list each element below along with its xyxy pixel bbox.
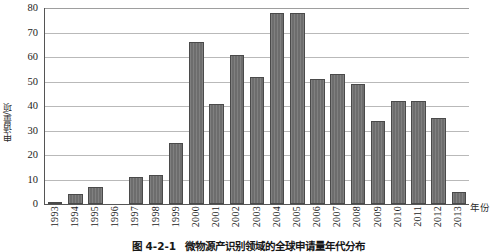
figure-container: 申请量/项 01020304050607080 1993199419951996…	[0, 0, 497, 252]
x-tick-label: 2012	[431, 206, 445, 242]
bar	[452, 192, 467, 204]
bar	[230, 55, 245, 204]
x-tick-label: 2003	[249, 206, 263, 242]
bar-slot	[287, 8, 307, 204]
plot-area	[44, 8, 469, 205]
y-tick-label: 80	[28, 3, 39, 13]
bar-slot	[408, 8, 428, 204]
x-tick-label: 2006	[310, 206, 324, 242]
x-tick-label: 1993	[47, 206, 61, 242]
figure-caption-number: 图 4-2-1	[132, 240, 176, 252]
bar	[431, 118, 446, 204]
figure-caption: 图 4-2-1微物源产识别领域的全球申请量年代分布	[0, 239, 497, 252]
x-tick-label: 1994	[67, 206, 81, 242]
bar-series	[45, 8, 469, 204]
bar	[129, 177, 144, 204]
x-axis-title: 年份	[470, 200, 490, 214]
bar-slot	[388, 8, 408, 204]
bar	[371, 121, 386, 204]
x-tick-label: 2009	[370, 206, 384, 242]
bar	[209, 104, 224, 204]
bar-slot	[247, 8, 267, 204]
figure-caption-text: 微物源产识别领域的全球申请量年代分布	[185, 240, 365, 252]
bar-slot	[186, 8, 206, 204]
bar-slot	[328, 8, 348, 204]
bar-slot	[85, 8, 105, 204]
y-tick-label: 0	[33, 199, 38, 209]
bar-slot	[267, 8, 287, 204]
x-tick-label: 2002	[229, 206, 243, 242]
x-tick-label: 2010	[390, 206, 404, 242]
bar-slot	[307, 8, 327, 204]
bar	[149, 175, 164, 204]
bar-slot	[126, 8, 146, 204]
bar	[88, 187, 103, 204]
y-tick-label: 70	[28, 28, 39, 38]
y-tick-label: 30	[28, 126, 39, 136]
y-tick-label: 10	[28, 175, 39, 185]
bar-slot	[146, 8, 166, 204]
bar-slot	[348, 8, 368, 204]
x-tick-label: 2000	[188, 206, 202, 242]
x-tick-label: 2011	[411, 206, 425, 242]
x-tick-label: 2008	[350, 206, 364, 242]
bar	[189, 42, 204, 204]
bar	[411, 101, 426, 204]
bar-slot	[429, 8, 449, 204]
x-tick-label: 2001	[209, 206, 223, 242]
x-tick-label: 2013	[451, 206, 465, 242]
x-tick-label: 2007	[330, 206, 344, 242]
bar	[391, 101, 406, 204]
bar-slot	[45, 8, 65, 204]
y-tick-label: 40	[28, 101, 39, 111]
bar-slot	[368, 8, 388, 204]
bar	[310, 79, 325, 204]
y-axis-tick-labels: 01020304050607080	[0, 0, 44, 212]
bar	[169, 143, 184, 204]
bar-slot	[166, 8, 186, 204]
x-tick-label: 2004	[269, 206, 283, 242]
x-tick-label: 1999	[168, 206, 182, 242]
x-tick-label: 1996	[108, 206, 122, 242]
bar-slot	[106, 8, 126, 204]
bar	[68, 194, 83, 204]
x-tick-label: 1998	[148, 206, 162, 242]
bar-slot	[65, 8, 85, 204]
bar	[250, 77, 265, 204]
x-tick-label: 1995	[87, 206, 101, 242]
bar	[351, 84, 366, 204]
bar-slot	[227, 8, 247, 204]
bar	[330, 74, 345, 204]
x-tick-label: 2005	[289, 206, 303, 242]
bar	[270, 13, 285, 204]
bar	[48, 202, 63, 204]
y-tick-label: 60	[28, 52, 39, 62]
bar-slot	[207, 8, 227, 204]
bar	[290, 13, 305, 204]
y-tick-label: 50	[28, 77, 39, 87]
bar-slot	[449, 8, 469, 204]
x-tick-label: 1997	[128, 206, 142, 242]
y-tick-label: 20	[28, 150, 39, 160]
